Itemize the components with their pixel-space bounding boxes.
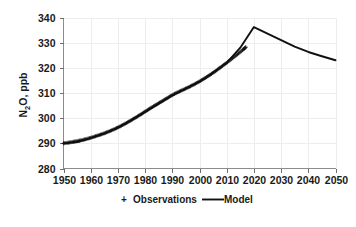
legend-label-model: Model [224, 194, 253, 205]
x-axis-tick-label: 1970 [107, 174, 131, 186]
y-axis-tick-label: 310 [38, 87, 56, 99]
x-axis-tick-label: 1990 [161, 174, 185, 186]
y-axis-title-rest: O, ppb [17, 72, 29, 105]
chart-figure: 280290300310320330340 195019601970198019… [0, 0, 356, 227]
y-axis-tick-label: 340 [38, 12, 56, 24]
x-axis-tick-label: 1960 [80, 174, 104, 186]
chart-legend: + Observations Model [121, 194, 253, 205]
x-axis-tick-label: 2020 [243, 174, 267, 186]
y-axis-tick-label: 320 [38, 62, 56, 74]
y-axis-tick-label: 300 [38, 112, 56, 124]
legend-marker-observations: + [121, 194, 127, 205]
y-axis-tick-label: 290 [38, 137, 56, 149]
y-axis-title-main: N [17, 110, 29, 118]
y-axis-tick-label: 330 [38, 37, 56, 49]
x-axis-tick-label: 2050 [325, 174, 349, 186]
n2o-concentration-chart: 280290300310320330340 195019601970198019… [0, 0, 356, 227]
legend-label-observations: Observations [133, 194, 197, 205]
x-axis-tick-label: 1950 [53, 174, 77, 186]
x-axis-tick-label: 2040 [297, 174, 321, 186]
x-axis-tick-label: 2010 [216, 174, 240, 186]
x-axis-tick-label: 1980 [134, 174, 158, 186]
x-axis-tick-label: 2030 [270, 174, 294, 186]
x-axis-tick-labels: 1950196019701980199020002010202020302040… [53, 174, 349, 186]
x-axis-tick-label: 2000 [189, 174, 213, 186]
